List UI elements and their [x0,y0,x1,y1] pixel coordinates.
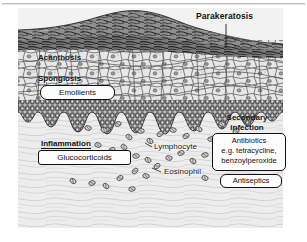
label-acanthosis: Acanthosis [38,54,81,63]
callout-antibiotics: Antibiotics e.g. tetracycline, benzoylpe… [212,133,286,171]
label-inflammation-text: Inflammation [41,139,91,149]
callout-antibiotics-line1: Antibiotics [232,136,267,145]
label-secondary-infection: Secondary infection [214,113,280,133]
label-spongiosis: Spongiosis [38,75,81,84]
label-lymphocyte: Lymphocyte [154,143,197,152]
label-inflammation: Inflammation [41,140,91,149]
callout-antibiotics-line3: benzoylperoxide [221,156,276,165]
label-secondary-infection-line2: infection [230,123,263,132]
label-secondary-infection-line1: Secondary [227,113,268,122]
label-eosinophil: Eosinophil [164,168,201,177]
callout-glucocorticoids: Glucocorticoids [38,150,131,165]
callout-emollients: Emollients [40,85,115,100]
label-parakeratosis: Parakeratosis [196,12,253,21]
callout-antiseptics: Antiseptics [220,174,282,188]
skin-pathology-figure: Parakeratosis Acanthosis Spongiosis Seco… [0,0,307,242]
callout-antibiotics-line2: e.g. tetracycline, [221,146,276,155]
